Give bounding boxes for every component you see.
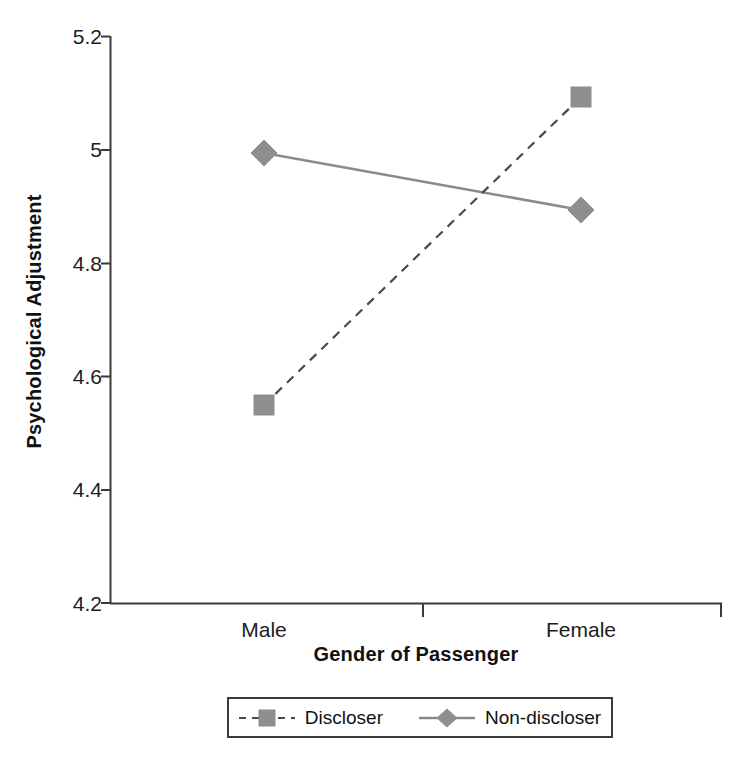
interaction-line-chart: 5.2 5 4.8 4.6 4.4 4.2 Male Female Gender… bbox=[0, 0, 756, 764]
y-axis-tick-label: 5.2 bbox=[38, 26, 102, 47]
non-discloser-legend-sample bbox=[419, 708, 475, 728]
diamond-marker-icon bbox=[437, 709, 457, 727]
legend-label-non-discloser: Non-discloser bbox=[485, 708, 601, 727]
y-axis-tick-label: 4.4 bbox=[38, 479, 102, 500]
series-discloser bbox=[254, 87, 591, 415]
y-tick-label-wrap-1: 5 bbox=[36, 139, 102, 160]
y-tick-label-wrap-4: 4.4 bbox=[36, 479, 102, 500]
y-axis-title: Psychological Adjustment bbox=[23, 192, 46, 452]
x-axis-tick-label-male: Male bbox=[184, 619, 344, 640]
discloser-line bbox=[264, 97, 581, 405]
y-axis-tick-label: 4.6 bbox=[38, 366, 102, 387]
x-axis-ticks bbox=[423, 604, 721, 617]
y-axis-tick-label: 4.8 bbox=[38, 253, 102, 274]
legend-item-discloser[interactable]: Discloser bbox=[239, 699, 383, 736]
non-discloser-point-male bbox=[251, 140, 277, 166]
chart-legend: Discloser Non-discloser bbox=[227, 697, 613, 738]
discloser-legend-sample bbox=[239, 708, 295, 728]
legend-label-discloser: Discloser bbox=[305, 708, 383, 727]
y-tick-label-wrap-2: 4.8 bbox=[36, 253, 102, 274]
y-tick-label-wrap-0: 5.2 bbox=[36, 26, 102, 47]
x-axis-tick-label-female: Female bbox=[501, 619, 661, 640]
legend-item-non-discloser[interactable]: Non-discloser bbox=[419, 699, 601, 736]
y-axis-ticks bbox=[101, 37, 110, 604]
non-discloser-line bbox=[264, 153, 581, 210]
y-axis-tick-label: 5 bbox=[38, 139, 102, 160]
y-tick-label-wrap-3: 4.6 bbox=[36, 366, 102, 387]
y-axis-tick-label: 4.2 bbox=[38, 593, 102, 614]
square-marker-icon bbox=[259, 710, 275, 726]
series-non-discloser bbox=[251, 140, 594, 223]
x-axis-title: Gender of Passenger bbox=[110, 643, 722, 666]
non-discloser-point-female bbox=[568, 197, 594, 223]
discloser-point-male bbox=[254, 395, 274, 415]
discloser-point-female bbox=[571, 87, 591, 107]
y-tick-label-wrap-5: 4.2 bbox=[36, 593, 102, 614]
